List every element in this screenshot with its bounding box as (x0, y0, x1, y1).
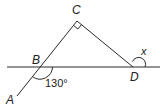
label-C: C (72, 4, 81, 16)
diagram-lines (0, 0, 164, 108)
angle-label-x: x (141, 46, 147, 57)
right-angle-marker (74, 25, 82, 29)
label-D: D (130, 71, 139, 83)
geometry-diagram: C B D A 130° x (0, 0, 164, 108)
angle-arc-D (133, 57, 146, 67)
line-CD (77, 21, 133, 67)
label-B: B (32, 54, 40, 66)
angle-label-130: 130° (45, 78, 68, 89)
label-A: A (6, 94, 14, 106)
